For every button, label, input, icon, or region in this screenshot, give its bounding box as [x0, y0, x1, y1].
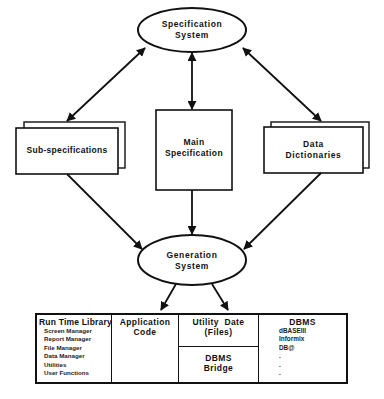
main-spec-line1: Main [156, 137, 232, 148]
gen-system-line2: System [140, 261, 244, 272]
dbms-title: DBMS [259, 317, 346, 327]
dbms-bridge-line2: Bridge [179, 363, 258, 373]
main-spec-label: Main Specification [156, 137, 232, 159]
utility-cell: Utility Date (Files) DBMS Bridge [179, 315, 259, 382]
gen-system-label: Generation System [140, 250, 244, 272]
application-code-line1: Application [112, 317, 178, 327]
dbms-list: dBASEIII Informix DB@ . . . [259, 327, 346, 377]
dbms-item: Informix [279, 335, 346, 343]
utility-files-line2: (Files) [179, 327, 258, 337]
dbms-item: . [279, 369, 346, 377]
edge-dict-gen [244, 173, 321, 249]
output-table: Run Time Library Screen Manager Report M… [35, 313, 348, 384]
utility-files-section: Utility Date (Files) [179, 315, 258, 347]
dbms-item: . [279, 352, 346, 360]
dbms-bridge-line1: DBMS [179, 353, 258, 363]
dbms-item: dBASEIII [279, 327, 346, 335]
application-code-line2: Code [112, 327, 178, 337]
edge-spec-dict [243, 48, 321, 121]
gen-system-line1: Generation [140, 250, 244, 261]
runtime-item: Screen Manager [39, 327, 109, 335]
spec-system-line2: System [140, 30, 244, 41]
runtime-item: Data Manager [39, 352, 109, 360]
sub-specs-label: Sub-specifications [16, 145, 118, 156]
runtime-item: File Manager [39, 344, 109, 352]
dbms-item: . [279, 361, 346, 369]
utility-files-line1: Utility Date [179, 317, 258, 327]
data-dicts-line1: Data [264, 139, 363, 150]
spec-system-label: Specification System [140, 19, 244, 41]
runtime-item: Utilities [39, 361, 109, 369]
sub-specs-text: Sub-specifications [16, 145, 118, 156]
runtime-item: Report Manager [39, 335, 109, 343]
edge-gen-util [212, 284, 228, 310]
edge-gen-app [161, 284, 176, 310]
runtime-item: User Functions [39, 369, 109, 377]
dbms-bridge-section: DBMS Bridge [179, 353, 258, 373]
runtime-library-cell: Run Time Library Screen Manager Report M… [37, 315, 112, 382]
dbms-cell: DBMS dBASEIII Informix DB@ . . . [259, 315, 346, 382]
runtime-library-title: Run Time Library [39, 317, 109, 327]
application-code-cell: Application Code [112, 315, 179, 382]
edge-sub-gen [67, 174, 142, 249]
data-dicts-label: Data Dictionaries [264, 139, 363, 161]
spec-system-line1: Specification [140, 19, 244, 30]
dbms-item: DB@ [279, 344, 346, 352]
main-spec-line2: Specification [156, 148, 232, 159]
data-dicts-line2: Dictionaries [264, 150, 363, 161]
edge-spec-sub [67, 48, 145, 121]
